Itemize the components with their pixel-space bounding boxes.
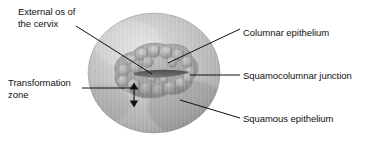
label-transformation-zone: Transformation zone bbox=[8, 77, 71, 100]
cervix-diagram-figure: External os of the cervix Transformation… bbox=[0, 0, 376, 143]
label-external-os: External os of the cervix bbox=[18, 6, 75, 29]
label-squamocolumnar-junction: Squamocolumnar junction bbox=[243, 70, 352, 82]
label-squamous-epithelium: Squamous epithelium bbox=[243, 113, 333, 125]
label-columnar-epithelium: Columnar epithelium bbox=[243, 27, 329, 39]
